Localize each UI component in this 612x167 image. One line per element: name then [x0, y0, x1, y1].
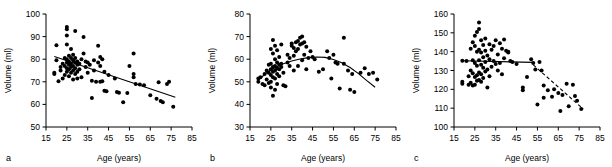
data-point	[71, 53, 75, 57]
data-point	[100, 57, 104, 61]
data-point	[292, 54, 296, 58]
data-point	[104, 89, 108, 93]
data-point	[300, 35, 304, 39]
data-point	[271, 94, 275, 98]
x-tick-label: 45	[308, 133, 318, 143]
data-point	[363, 66, 367, 70]
data-point	[498, 41, 502, 45]
data-point	[479, 38, 483, 42]
data-point	[269, 47, 273, 51]
x-tick-label: 85	[391, 133, 401, 143]
data-point	[477, 20, 481, 24]
data-point	[117, 91, 121, 95]
y-tick-label: 60	[235, 54, 245, 64]
x-axis-ticks: 1525354555657585	[41, 127, 197, 143]
data-point	[481, 76, 485, 80]
data-point	[496, 52, 500, 56]
data-point	[161, 100, 165, 104]
y-tick-label: 30	[235, 122, 245, 132]
x-tick-label: 75	[166, 133, 176, 143]
y-tick-label: 160	[434, 9, 448, 19]
y-tick-label: 70	[31, 77, 41, 87]
data-point	[52, 72, 56, 76]
data-point	[531, 61, 535, 65]
x-axis-ticks: 1525354555657585	[449, 127, 605, 143]
data-point	[86, 71, 90, 75]
data-point	[275, 82, 279, 86]
x-tick-label: 55	[329, 133, 339, 143]
data-point	[271, 38, 275, 42]
data-point	[469, 47, 473, 51]
data-point	[269, 62, 273, 66]
data-point	[82, 52, 86, 56]
x-tick-label: 75	[574, 133, 584, 143]
data-point	[483, 36, 487, 40]
data-point	[54, 58, 58, 62]
data-point	[67, 74, 71, 78]
data-point	[273, 57, 277, 61]
y-axis-ticks: 5060708090100	[26, 9, 46, 132]
data-point	[302, 40, 306, 44]
x-tick-label: 35	[287, 133, 297, 143]
data-point	[485, 53, 489, 57]
data-point	[171, 105, 175, 109]
data-point	[54, 43, 58, 47]
y-tick-label: 50	[31, 122, 41, 132]
data-point	[121, 100, 125, 104]
y-axis-title: Volume (ml)	[411, 48, 421, 94]
data-point	[90, 79, 94, 83]
data-point	[479, 72, 483, 76]
data-points	[460, 20, 583, 113]
data-point	[542, 96, 546, 100]
panel-b: 3040506070801525354555657585Age (years)V…	[204, 0, 408, 167]
x-tick-label: 85	[595, 133, 605, 143]
data-point	[132, 75, 136, 79]
data-point	[506, 51, 510, 55]
data-point	[565, 82, 569, 86]
data-point	[269, 80, 273, 84]
data-point	[331, 53, 335, 57]
data-point	[61, 76, 65, 80]
data-point	[573, 94, 577, 98]
x-axis-title: Age (years)	[97, 153, 141, 163]
data-point	[473, 44, 477, 48]
data-point	[79, 75, 83, 79]
x-tick-label: 35	[491, 133, 501, 143]
x-tick-label: 55	[533, 133, 543, 143]
data-point	[308, 49, 312, 53]
data-point	[77, 67, 81, 71]
data-point	[79, 57, 83, 61]
x-axis-ticks: 1525354555657585	[245, 127, 401, 143]
data-point	[273, 88, 277, 92]
data-point	[90, 96, 94, 100]
data-point	[556, 91, 560, 95]
x-tick-label: 55	[125, 133, 135, 143]
data-point	[256, 80, 260, 84]
y-tick-label: 150	[434, 28, 448, 38]
data-point	[279, 43, 283, 47]
data-point	[473, 34, 477, 38]
data-point	[73, 66, 77, 70]
data-point	[529, 57, 533, 61]
data-point	[525, 75, 529, 79]
data-point	[542, 84, 546, 88]
data-point	[485, 85, 489, 89]
data-point	[473, 83, 477, 87]
data-point	[481, 66, 485, 70]
data-point	[538, 60, 542, 64]
data-point	[286, 53, 290, 57]
data-point	[57, 79, 61, 83]
x-tick-label: 45	[512, 133, 522, 143]
data-point	[65, 33, 69, 37]
data-point	[96, 44, 100, 48]
y-axis-title: Volume (ml)	[3, 48, 13, 94]
y-tick-label: 60	[31, 99, 41, 109]
x-tick-label: 65	[554, 133, 564, 143]
x-tick-label: 65	[350, 133, 360, 143]
data-point	[65, 43, 69, 47]
data-point	[59, 69, 63, 73]
y-axis-ticks: 304050607080	[235, 9, 250, 132]
data-point	[94, 80, 98, 84]
data-point	[483, 60, 487, 64]
data-point	[352, 90, 356, 94]
